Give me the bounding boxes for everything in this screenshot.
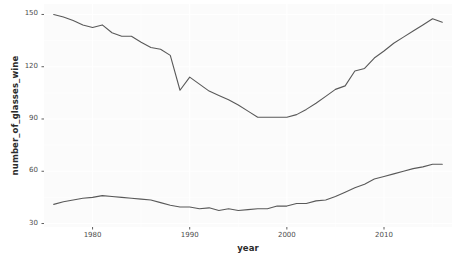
y-tick-label: 30 [14, 219, 38, 227]
line-chart [0, 0, 461, 263]
y-tick-label: 90 [14, 114, 38, 122]
y-tick-label: 150 [14, 9, 38, 17]
x-axis-title: year [44, 243, 452, 253]
chart-container: number_of_glasses_wine year 306090120150… [0, 0, 461, 263]
plot-panel [44, 4, 452, 227]
x-tick-label: 2000 [272, 231, 302, 239]
x-tick-label: 1990 [175, 231, 205, 239]
x-tick-label: 1980 [78, 231, 108, 239]
x-tick-label: 2010 [369, 231, 399, 239]
y-tick-label: 120 [14, 62, 38, 70]
y-tick-label: 60 [14, 166, 38, 174]
